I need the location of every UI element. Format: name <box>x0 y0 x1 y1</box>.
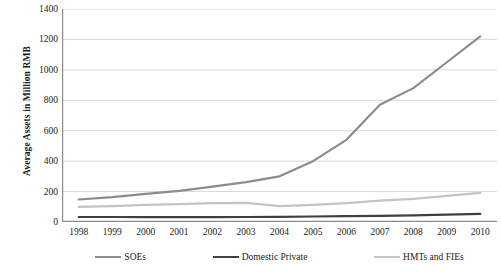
x-tick-label: 2010 <box>460 226 500 238</box>
y-tick-label: 400 <box>12 156 58 166</box>
legend-item[interactable]: SOEs <box>95 251 146 263</box>
y-tick-label: 0 <box>12 217 58 227</box>
y-tick-label: 800 <box>12 95 58 105</box>
y-tick-label: 1000 <box>12 65 58 75</box>
data-series <box>79 36 481 217</box>
legend-swatch-icon <box>95 256 121 258</box>
legend-label: SOEs <box>124 251 146 263</box>
chart-legend: SOEsDomestic PrivateHMTs and FIEs <box>62 249 497 265</box>
y-tick-label: 1400 <box>12 4 58 14</box>
plot-svg <box>62 9 497 222</box>
legend-swatch-icon <box>213 256 239 258</box>
x-axis-tick-labels: 1998199920002001200220032004200520062007… <box>62 226 497 240</box>
legend-item[interactable]: HMTs and FIEs <box>374 251 464 263</box>
series-line-domestic-private <box>79 214 481 217</box>
line-chart: Average Assets in Million RMB 1400120010… <box>0 0 501 275</box>
plot-area <box>62 9 497 222</box>
y-tick-label: 1200 <box>12 34 58 44</box>
gridlines <box>62 9 497 222</box>
y-axis-tick-labels: 1400120010008006004002000 <box>8 9 58 222</box>
y-tick-label: 600 <box>12 126 58 136</box>
y-tick-label: 200 <box>12 187 58 197</box>
legend-label: Domestic Private <box>242 251 308 263</box>
legend-item[interactable]: Domestic Private <box>213 251 308 263</box>
legend-swatch-icon <box>374 256 400 258</box>
series-line-soes <box>79 36 481 199</box>
legend-label: HMTs and FIEs <box>403 251 464 263</box>
